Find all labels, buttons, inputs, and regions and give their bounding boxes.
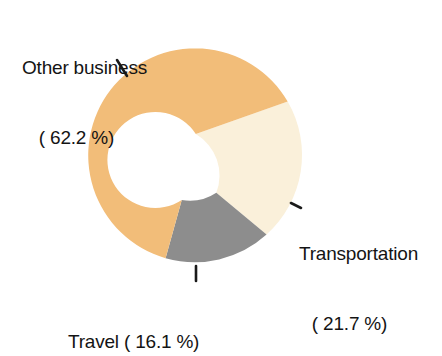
slice-label-transportation-value: ( 21.7 %) <box>299 312 418 335</box>
slice-label-other-business-value: ( 62.2 %) <box>22 126 147 149</box>
slice-label-travel: Travel ( 16.1 %) <box>68 284 199 356</box>
slice-label-other-business-name: Other business <box>22 56 147 79</box>
slice-label-transportation: Transportation ( 21.7 %) <box>299 196 418 356</box>
slice-label-other-business: Other business ( 62.2 %) <box>22 10 147 195</box>
slice-label-transportation-name: Transportation <box>299 242 418 265</box>
slice-label-travel-name: Travel ( 16.1 %) <box>68 330 199 353</box>
